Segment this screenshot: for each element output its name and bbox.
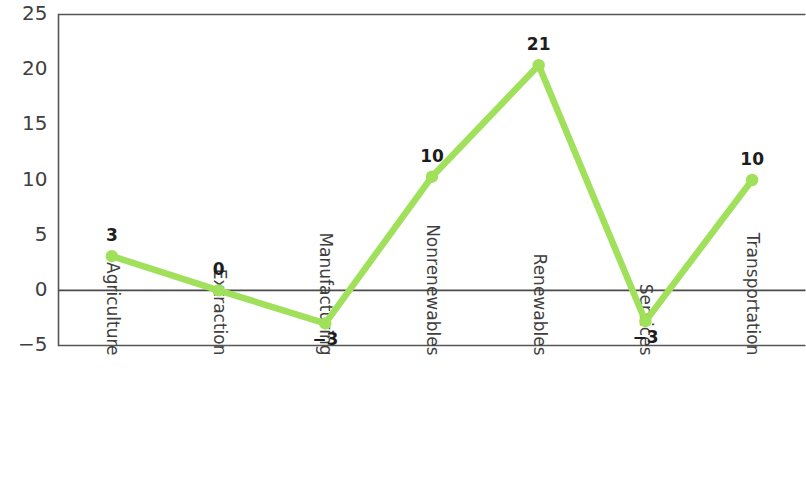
data-point-label: 0 [213,259,225,279]
y-tick-label: 15 [22,111,47,135]
x-tick-label-renewables: Renewables [530,254,550,356]
data-point-label: 10 [740,149,764,169]
data-point-marker [639,315,651,327]
chart-canvas: 2520151050−5 AgricultureExtractionManufa… [0,0,806,492]
y-tick-label: 25 [22,1,47,25]
data-point-marker [746,174,758,186]
x-tick-label-nonrenewables: Nonrenewables [423,224,443,355]
y-tick-label: 20 [22,56,47,80]
chart-background [0,0,806,492]
data-point-marker [426,170,438,182]
y-tick-label: 0 [35,277,48,301]
x-tick-label-extraction: Extraction [210,269,230,356]
data-point-label: 3 [106,225,118,245]
y-tick-label: 10 [22,167,47,191]
data-point-marker [533,59,545,71]
data-point-marker [106,250,118,262]
data-point-label: −3 [632,327,658,347]
data-point-label: 21 [527,34,551,54]
data-point-marker [319,317,331,329]
data-point-label: −3 [312,329,338,349]
y-tick-label: −5 [18,332,47,356]
data-point-marker [212,284,224,296]
x-tick-label-transportation: Transportation [743,232,763,356]
line-chart: 2520151050−5 AgricultureExtractionManufa… [0,0,806,492]
y-tick-label: 5 [35,222,48,246]
x-tick-label-agriculture: Agriculture [103,262,123,356]
data-point-label: 10 [420,146,444,166]
